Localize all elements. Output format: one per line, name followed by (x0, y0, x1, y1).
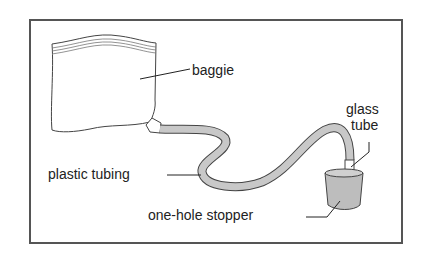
baggie-icon (51, 35, 156, 132)
plastic-tubing-icon (160, 128, 350, 187)
stopper-label: one-hole stopper (148, 208, 253, 223)
glass-tube-label-line1: glass (346, 102, 379, 117)
stopper-icon (325, 169, 363, 210)
baggie-label: baggie (192, 63, 234, 78)
glass-tube-label-line2: tube (351, 118, 378, 133)
plastic-tubing-label: plastic tubing (48, 167, 130, 182)
